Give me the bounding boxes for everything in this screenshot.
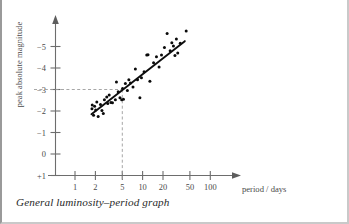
x-axis-title: period / days [242, 184, 287, 194]
x-tick-label-4: 20 [159, 183, 167, 192]
data-point [90, 107, 93, 110]
data-point [126, 89, 129, 92]
data-point [175, 37, 178, 40]
data-point [158, 65, 161, 68]
data-point [100, 109, 103, 112]
y-axis-arrow-icon [52, 15, 59, 24]
data-point [122, 98, 125, 101]
x-tick-label-0: 1 [73, 183, 77, 192]
data-point [148, 80, 151, 83]
y-tick-label-6: +1 [37, 172, 46, 181]
data-point [155, 55, 158, 58]
data-point [147, 53, 150, 56]
data-point [173, 54, 176, 57]
data-point [132, 85, 135, 88]
x-tick-label-5: 50 [186, 183, 194, 192]
data-point [103, 98, 106, 101]
x-axis-ticks [75, 171, 210, 180]
data-point [97, 115, 100, 118]
data-point [102, 112, 105, 115]
data-point [115, 80, 118, 83]
x-tick-label-1: 2 [93, 183, 97, 192]
chart-plot-area: peak absolute magnitude −5 −4 −3 [2, 0, 349, 200]
y-tick-label-5: 0 [42, 150, 46, 159]
data-point [105, 96, 108, 99]
scatter-chart-svg: −5 −4 −3 −2 −1 0 +1 1 2 5 10 20 50 [2, 0, 349, 200]
y-tick-label-1: −4 [37, 64, 47, 73]
data-point [95, 100, 98, 103]
data-point [163, 46, 166, 49]
data-point [166, 32, 169, 35]
y-tick-label-3: −2 [37, 107, 46, 116]
data-point [185, 30, 188, 33]
figure-frame: peak absolute magnitude −5 −4 −3 [0, 0, 349, 224]
data-point [134, 68, 137, 71]
y-tick-label-2: −3 [37, 86, 46, 95]
data-point [124, 82, 127, 85]
x-tick-label-3: 10 [138, 183, 146, 192]
data-point [111, 101, 114, 104]
y-tick-label-4: −1 [37, 129, 46, 138]
data-point [127, 78, 130, 81]
x-axis-arrow-icon [232, 172, 241, 179]
data-point [138, 96, 141, 99]
figure-caption: General luminosity–period graph [16, 196, 170, 208]
x-tick-label-6: 100 [204, 183, 217, 192]
data-point [170, 41, 173, 44]
best-fit-trend-line [91, 41, 184, 114]
data-point [108, 93, 111, 96]
y-tick-label-0: −5 [37, 43, 46, 52]
data-point [114, 98, 117, 101]
data-point [160, 54, 163, 57]
data-point [176, 51, 179, 54]
data-point [172, 45, 175, 48]
data-point [93, 105, 96, 108]
x-tick-label-2: 5 [120, 183, 124, 192]
